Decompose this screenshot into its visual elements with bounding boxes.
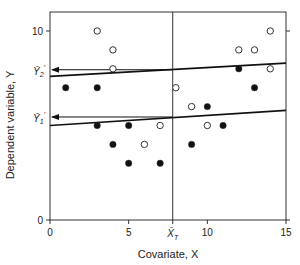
arrowhead-icon — [51, 114, 59, 120]
open-data-point — [251, 47, 257, 53]
filled-data-point — [94, 85, 100, 91]
filled-data-point — [94, 122, 100, 128]
filled-data-point — [63, 85, 69, 91]
open-data-point — [204, 122, 210, 128]
arrowhead-icon — [51, 67, 59, 73]
y-tick-label: 0 — [37, 215, 43, 226]
open-data-point — [267, 28, 273, 34]
scatter-chart: 051015010 X̄TȲ2′Ȳ1′ Covariate, X Depende… — [0, 0, 300, 265]
filled-data-point — [220, 122, 226, 128]
plot-frame — [50, 12, 286, 220]
open-data-point — [110, 47, 116, 53]
open-data-point — [188, 103, 194, 109]
plot-border — [50, 12, 286, 220]
filled-data-point — [110, 141, 116, 147]
adjusted-mean-subscript: 1 — [40, 118, 44, 125]
open-data-point — [157, 122, 163, 128]
adjusted-mean-prime: ′ — [44, 111, 46, 118]
open-data-point — [236, 47, 242, 53]
adjusted-mean-label: Ȳ1′ — [33, 111, 46, 125]
regression-lines — [50, 63, 286, 125]
filled-data-point — [251, 85, 257, 91]
filled-data-point — [188, 141, 194, 147]
y-tick-label: 10 — [32, 26, 44, 37]
xbar-t-subscript: T — [174, 234, 179, 241]
regression-line — [50, 110, 286, 125]
axis-ticks: 051015010 — [32, 26, 292, 238]
open-data-point — [267, 66, 273, 72]
filled-data-point — [125, 160, 131, 166]
x-tick-label: 10 — [202, 227, 214, 238]
open-data-point — [94, 28, 100, 34]
y-axis-label: Dependent variable, Y — [4, 70, 16, 179]
x-axis-label: Covariate, X — [138, 248, 199, 260]
x-tick-label: 15 — [280, 227, 292, 238]
xbar-t-label: X̄T — [166, 227, 179, 241]
filled-data-point — [204, 103, 210, 109]
open-data-point — [141, 141, 147, 147]
filled-data-point — [125, 122, 131, 128]
adjusted-mean-prime: ′ — [44, 64, 46, 71]
open-data-point — [110, 66, 116, 72]
adjusted-mean-label: Ȳ2′ — [33, 64, 46, 78]
filled-data-point — [157, 160, 163, 166]
open-data-point — [173, 85, 179, 91]
data-points — [63, 28, 274, 167]
filled-data-point — [236, 66, 242, 72]
x-tick-label: 5 — [126, 227, 132, 238]
adjusted-mean-subscript: 2 — [39, 71, 44, 78]
x-tick-label: 0 — [47, 227, 53, 238]
